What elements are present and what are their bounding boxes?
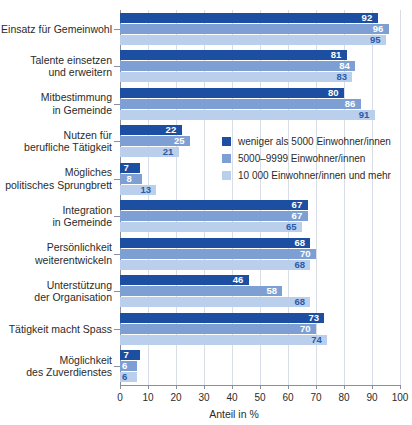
x-tick-40 — [232, 385, 233, 389]
category-label-line: Nutzen für — [0, 129, 112, 142]
legend-label: weniger als 5000 Einwohner/innen — [238, 136, 391, 147]
category-axis-labels: Einsatz für GemeinwohlTalente einsetzenu… — [0, 10, 112, 385]
bar-value-label: 22 — [166, 126, 177, 136]
category-label-line: in Gemeinde — [0, 216, 112, 229]
bar — [120, 72, 352, 82]
x-tick-label-60: 60 — [282, 392, 293, 403]
chart-legend: weniger als 5000 Einwohner/innen5000–999… — [222, 133, 410, 184]
plot-area: 9296958184838086912225217813676765687068… — [120, 10, 400, 385]
category-label: Mitbestimmungin Gemeinde — [0, 91, 112, 116]
category-label-line: politisches Sprungbrett — [0, 179, 112, 192]
bar-value-label: 80 — [328, 88, 339, 98]
bar-group: 929695 — [120, 13, 400, 45]
category-tick — [114, 366, 120, 367]
bar-group: 465868 — [120, 275, 400, 307]
bar-value-label: 70 — [300, 249, 311, 259]
x-tick-label-30: 30 — [198, 392, 209, 403]
bar — [120, 13, 378, 23]
x-tick-100 — [400, 385, 401, 389]
bar-value-label: 96 — [373, 24, 384, 34]
category-tick — [114, 216, 120, 217]
x-tick-30 — [204, 385, 205, 389]
bar-row: 68 — [120, 260, 400, 270]
x-tick-label-90: 90 — [366, 392, 377, 403]
x-tick-80 — [344, 385, 345, 389]
bar-value-label: 25 — [174, 137, 185, 147]
x-tick-90 — [372, 385, 373, 389]
bar-value-label: 84 — [339, 62, 350, 72]
bar-row: 84 — [120, 61, 400, 71]
bar-row: 92 — [120, 13, 400, 23]
bar-row: 67 — [120, 200, 400, 210]
bar-chart: Einsatz für GemeinwohlTalente einsetzenu… — [0, 0, 412, 425]
category-label: Talente einsetzenund erweitern — [0, 54, 112, 79]
bar-value-label: 6 — [122, 362, 127, 372]
x-tick-60 — [288, 385, 289, 389]
category-tick — [114, 66, 120, 67]
bar — [120, 50, 347, 60]
bar — [120, 249, 316, 259]
category-tick — [114, 254, 120, 255]
bar-value-label: 58 — [266, 287, 277, 297]
x-tick-label-80: 80 — [338, 392, 349, 403]
bar-row: 6 — [120, 361, 400, 371]
bar-group: 818483 — [120, 50, 400, 82]
bar — [120, 211, 308, 221]
category-label-line: Möglichkeit — [0, 354, 112, 367]
bar-value-label: 7 — [124, 163, 129, 173]
legend-swatch — [222, 171, 231, 180]
category-label: Tätigkeit macht Spass — [0, 323, 112, 336]
x-tick-20 — [176, 385, 177, 389]
bar — [120, 35, 386, 45]
bar-value-label: 91 — [359, 110, 370, 120]
bar-row: 46 — [120, 275, 400, 285]
category-label-line: Talente einsetzen — [0, 54, 112, 67]
bar-value-label: 46 — [233, 276, 244, 286]
category-tick — [114, 179, 120, 180]
bar-value-label: 68 — [294, 298, 305, 308]
bar-value-label: 83 — [336, 73, 347, 83]
legend-item: 10 000 Einwohner/innen und mehr — [222, 167, 410, 184]
category-label-line: Integration — [0, 204, 112, 217]
bar-row: 70 — [120, 324, 400, 334]
bar — [120, 88, 344, 98]
category-tick — [114, 29, 120, 30]
bar-group: 687068 — [120, 238, 400, 270]
x-tick-10 — [148, 385, 149, 389]
x-axis-title-text: Anteil in % — [209, 408, 259, 420]
legend-label: 10 000 Einwohner/innen und mehr — [238, 170, 391, 181]
bar-group: 766 — [120, 350, 400, 382]
bar-value-label: 65 — [286, 223, 297, 233]
category-label-line: weiterentwickeln — [0, 254, 112, 267]
bar-row: 70 — [120, 249, 400, 259]
bar-row: 83 — [120, 72, 400, 82]
category-tick — [114, 104, 120, 105]
category-label-line: Mitbestimmung — [0, 91, 112, 104]
category-label-line: Einsatz für Gemeinwohl — [0, 23, 112, 36]
category-label-line: Persönlichkeit — [0, 241, 112, 254]
bar-row: 95 — [120, 35, 400, 45]
bar-value-label: 67 — [292, 201, 303, 211]
bar-value-label: 21 — [163, 148, 174, 158]
legend-label: 5000–9999 Einwohner/innen — [238, 153, 365, 164]
bar-row: 80 — [120, 88, 400, 98]
bar-value-label: 68 — [294, 260, 305, 270]
category-tick — [114, 291, 120, 292]
legend-item: weniger als 5000 Einwohner/innen — [222, 133, 410, 150]
bar — [120, 61, 355, 71]
bar-value-label: 13 — [140, 185, 151, 195]
gridline-100 — [400, 10, 401, 385]
category-label-line: Tätigkeit macht Spass — [0, 323, 112, 336]
x-tick-label-0: 0 — [117, 392, 123, 403]
bar-row: 68 — [120, 238, 400, 248]
bar — [120, 286, 282, 296]
category-label-line: der Organisation — [0, 291, 112, 304]
category-label-line: Mögliches — [0, 166, 112, 179]
category-label-line: in Gemeinde — [0, 104, 112, 117]
category-label-line: des Zuverdienstes — [0, 366, 112, 379]
bar-row: 74 — [120, 335, 400, 345]
bar — [120, 99, 361, 109]
bar-row: 81 — [120, 50, 400, 60]
bar-row: 96 — [120, 24, 400, 34]
bar-row: 65 — [120, 222, 400, 232]
